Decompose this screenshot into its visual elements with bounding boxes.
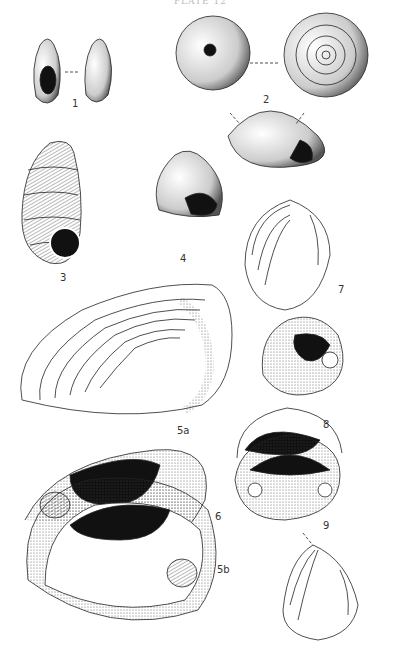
figure-9 (235, 435, 358, 640)
illustration-plate: PLATE 12 (0, 0, 401, 665)
figure-1 (34, 39, 112, 103)
figure-3-label: 3 (60, 272, 66, 283)
figure-8-label: 8 (323, 419, 329, 430)
figure-2 (176, 13, 368, 167)
figure-3 (22, 141, 81, 263)
figure-4 (156, 151, 222, 217)
figure-6-label: 6 (215, 511, 221, 522)
figure-1-label: 1 (72, 98, 78, 109)
figure-5a (21, 284, 232, 414)
figure-5b-label: 5b (217, 564, 230, 575)
figure-5b (27, 478, 216, 620)
figure-7-label: 7 (338, 284, 344, 295)
figure-2-label: 2 (263, 94, 269, 105)
shell-drawings (0, 0, 401, 665)
figure-9-label: 9 (323, 520, 329, 531)
figure-4-label: 4 (180, 253, 186, 264)
figure-5a-label: 5a (177, 425, 190, 436)
figure-7 (245, 200, 343, 395)
